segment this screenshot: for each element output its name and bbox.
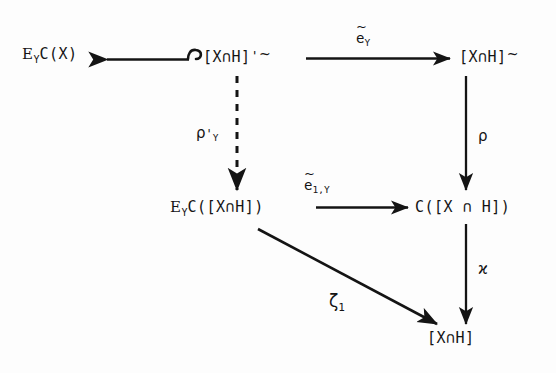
label-e-tilde-1-y-subscript: 1,Y — [312, 184, 329, 195]
node-top-right: [X∩H]~ — [459, 47, 519, 65]
label-zeta-1-subscript: 1 — [338, 301, 345, 314]
label-e-tilde-y-stack: ~e — [356, 31, 364, 45]
node-top-middle-prime: ' — [251, 48, 259, 63]
label-rho-prime-y-prime: ' — [206, 127, 213, 141]
tilde-accent-icon: ~ — [356, 20, 364, 33]
node-middle-left: EYC([X∩H]) — [170, 200, 264, 218]
node-top-middle-bracket: [X∩H] — [203, 48, 251, 66]
label-rho-prime-y-base: ρ — [196, 124, 206, 142]
node-top-right-bracket: [X∩H] — [459, 48, 507, 66]
commutative-diagram: EYC(X) [X∩H]'~ [X∩H]~ EYC([X∩H]) C([X ∩ … — [0, 0, 556, 373]
node-middle-left-rest: C([X∩H]) — [187, 198, 263, 216]
label-e-tilde-1-y: ~e1,Y — [304, 178, 330, 195]
label-zeta-1-base: ζ — [329, 291, 338, 311]
node-top-right-tilde: ~ — [507, 46, 519, 62]
node-top-left: EYC(X) — [22, 47, 78, 65]
node-bottom-right-text: [X∩H] — [427, 329, 475, 347]
label-rho-base: ρ — [478, 127, 488, 145]
label-e-tilde-y: ~eY — [356, 31, 370, 48]
arrow-zeta-1 — [258, 229, 437, 324]
node-top-left-text: E — [22, 45, 33, 63]
node-top-left-rest: C(X) — [39, 45, 77, 63]
node-middle-right: C([X ∩ H]) — [415, 200, 510, 215]
node-middle-right-text: C([X ∩ H]) — [415, 198, 510, 216]
arrow-hook-left — [107, 50, 201, 60]
label-zeta-1: ζ1 — [329, 293, 345, 313]
label-rho-prime-y-subscript: Y — [213, 132, 219, 143]
label-rho-prime-y: ρ'Y — [196, 126, 219, 143]
label-varkappa: ϰ — [478, 262, 488, 277]
node-bottom-right: [X∩H] — [427, 331, 475, 346]
tilde-accent-icon: ~ — [304, 167, 312, 180]
label-varkappa-base: ϰ — [478, 260, 488, 278]
label-e-tilde-1-y-stack: ~e — [304, 178, 312, 192]
node-top-middle: [X∩H]'~ — [203, 47, 271, 65]
label-e-tilde-y-subscript: Y — [364, 37, 370, 48]
node-top-middle-tilde: ~ — [259, 46, 271, 62]
label-rho: ρ — [478, 129, 488, 144]
node-middle-left-text: E — [170, 198, 181, 216]
